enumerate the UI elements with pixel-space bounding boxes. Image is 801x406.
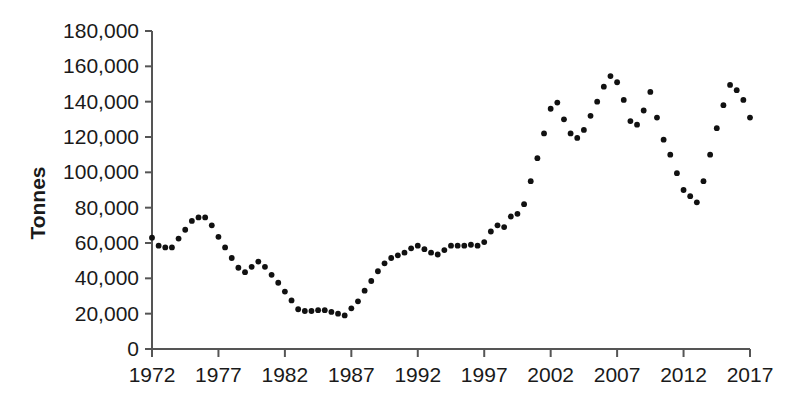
data-point [322,307,328,313]
data-point [162,245,168,251]
data-point [329,309,335,315]
data-point [309,308,315,314]
y-tick-label: 60,000 [75,231,139,254]
data-point [355,298,361,304]
data-point [415,243,421,249]
data-point [222,245,228,251]
data-point [282,289,288,295]
data-point [561,116,567,122]
data-point [628,118,634,124]
data-point [647,89,653,95]
data-point [707,152,713,158]
data-point [362,288,368,294]
x-tick-label: 2012 [660,363,707,386]
x-tick-label: 2007 [594,363,641,386]
data-point [475,243,481,249]
data-point [189,218,195,224]
x-tick-label: 1982 [262,363,309,386]
data-point [554,100,560,106]
y-tick-label: 120,000 [63,125,139,148]
y-tick-label: 40,000 [75,266,139,289]
data-point [721,102,727,108]
data-point [435,252,441,258]
y-tick-label: 0 [127,337,139,360]
data-series-points [149,73,753,318]
data-point [149,235,155,241]
data-point [402,250,408,256]
data-point [541,131,547,137]
data-point [302,308,308,314]
data-point [681,187,687,193]
data-point [342,313,348,319]
data-point [275,280,281,286]
data-point [216,234,222,240]
data-point [262,264,268,270]
data-point [388,255,394,261]
data-point [242,269,248,275]
data-point [588,113,594,119]
data-point [295,306,301,312]
x-tick-label: 2002 [527,363,574,386]
x-axis-ticks: 1972197719821987199219972002200720122017 [129,349,774,386]
data-point [468,242,474,248]
data-point [614,79,620,85]
data-point [169,245,175,251]
data-point [196,214,202,220]
y-tick-label: 140,000 [63,90,139,113]
data-point [515,211,521,217]
x-tick-label: 2017 [727,363,774,386]
data-point [235,265,241,271]
data-point [694,199,700,205]
data-point [368,278,374,284]
y-tick-label: 160,000 [63,54,139,77]
data-point [621,97,627,103]
data-point [249,264,255,270]
chart-figure: Tonnes 020,00040,00060,00080,000100,0001… [0,0,801,406]
data-point [654,115,660,121]
data-point [461,243,467,249]
data-point [641,108,647,114]
data-point [255,259,261,265]
data-point [448,243,454,249]
data-point [714,125,720,131]
x-tick-label: 1997 [461,363,508,386]
x-tick-label: 1977 [195,363,242,386]
data-point [747,115,753,121]
data-point [548,106,554,112]
data-point [441,247,447,253]
data-point [534,155,540,161]
data-point [608,73,614,79]
data-point [508,214,514,220]
data-point [634,122,640,128]
data-point [727,82,733,88]
data-point [209,222,215,228]
x-tick-label: 1987 [328,363,375,386]
data-point [348,305,354,311]
y-tick-label: 180,000 [63,19,139,42]
data-point [395,252,401,258]
axis-lines [152,31,750,349]
chart-plot-area: 020,00040,00060,00080,000100,000120,0001… [0,0,801,406]
data-point [601,84,607,90]
data-point [156,243,162,249]
data-point [581,127,587,133]
data-point [594,99,600,105]
y-tick-label: 100,000 [63,160,139,183]
data-point [315,307,321,313]
y-tick-label: 20,000 [75,302,139,325]
data-point [202,214,208,220]
data-point [481,239,487,245]
data-point [289,298,295,304]
data-point [495,222,501,228]
data-point [408,245,414,251]
data-point [734,87,740,93]
data-point [335,311,341,317]
data-point [521,201,527,207]
x-tick-label: 1972 [129,363,176,386]
data-point [455,243,461,249]
data-point [269,272,275,278]
data-point [574,135,580,141]
data-point [687,193,693,199]
data-point [422,246,428,252]
data-point [229,255,235,261]
